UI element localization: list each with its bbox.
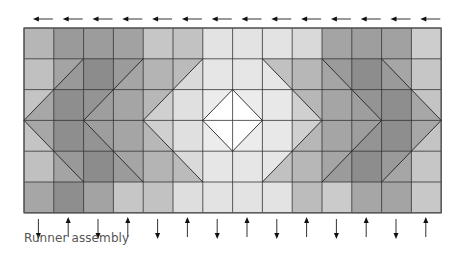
grid-cell [233, 28, 263, 59]
grid-cell [24, 151, 54, 182]
grid-cell [203, 28, 233, 59]
arrow-down-icon [394, 219, 399, 239]
arrow-left-icon [63, 17, 83, 22]
arrow-down-icon [155, 219, 160, 239]
grid-cell [54, 28, 84, 59]
arrow-up-icon [245, 217, 250, 237]
grid-cell [173, 28, 203, 59]
grid-cell [382, 28, 412, 59]
grid-cell [113, 182, 143, 213]
grid-cell [233, 151, 263, 182]
grid-cell [173, 120, 203, 151]
arrow-up-icon [185, 217, 190, 237]
grid-cell [411, 182, 441, 213]
arrow-down-icon [215, 219, 220, 239]
arrow-left-icon [271, 17, 291, 22]
grid-cell [233, 182, 263, 213]
arrow-up-icon [304, 217, 309, 237]
grid-cell [173, 90, 203, 121]
grid-cell [24, 28, 54, 59]
grid-cell [143, 182, 173, 213]
arrow-left-icon [331, 17, 351, 22]
arrow-left-icon [122, 17, 142, 22]
grid-cell [292, 182, 322, 213]
grid-cell [54, 182, 84, 213]
arrow-left-icon [301, 17, 321, 22]
grid-cell [262, 182, 292, 213]
runner-assembly-diagram [0, 0, 462, 262]
grid-cell [24, 59, 54, 90]
grid-cell [262, 120, 292, 151]
grid-cell [352, 182, 382, 213]
flow-arrows-top [33, 17, 440, 22]
grid-cell [262, 28, 292, 59]
grid-cell [262, 90, 292, 121]
grid-cell [143, 28, 173, 59]
arrow-left-icon [242, 17, 262, 22]
grid-cell [203, 182, 233, 213]
grid-cell [322, 28, 352, 59]
arrow-up-icon [364, 217, 369, 237]
grid-cell [411, 28, 441, 59]
arrow-left-icon [212, 17, 232, 22]
grid-cell [411, 59, 441, 90]
grid-cell [24, 182, 54, 213]
arrow-left-icon [420, 17, 440, 22]
arrow-left-icon [93, 17, 113, 22]
arrow-up-icon [423, 217, 428, 237]
grid-cell [382, 182, 412, 213]
grid-cell [292, 28, 322, 59]
grid-cell [352, 28, 382, 59]
arrow-down-icon [334, 219, 339, 239]
diagram-caption: Runner assembly [24, 231, 129, 245]
grid-cell [322, 182, 352, 213]
grid-cell [203, 59, 233, 90]
grid-cell [113, 28, 143, 59]
grid-cell [84, 182, 114, 213]
arrow-left-icon [391, 17, 411, 22]
arrow-left-icon [182, 17, 202, 22]
grid-cell [173, 182, 203, 213]
arrow-left-icon [152, 17, 172, 22]
grid-cell [233, 59, 263, 90]
arrow-left-icon [33, 17, 53, 22]
arrow-down-icon [274, 219, 279, 239]
grid-cell [84, 28, 114, 59]
grid-cell [411, 151, 441, 182]
arrow-left-icon [361, 17, 381, 22]
grid-cell [203, 151, 233, 182]
